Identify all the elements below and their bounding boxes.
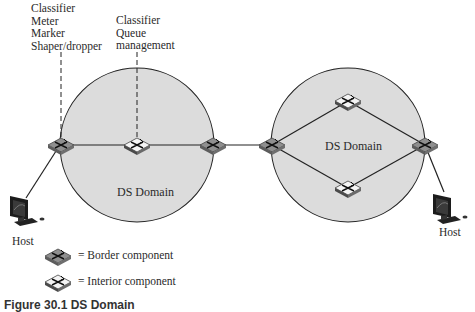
interior-function-classifier: Classifier: [116, 14, 175, 27]
host-right-label: Host: [439, 226, 461, 239]
legend-border: = Border component: [78, 249, 173, 261]
ds-domain-2-label: DS Domain: [325, 139, 382, 154]
legend-interior-router-icon: [45, 275, 71, 292]
border-functions-label: Classifier Meter Marker Shaper/dropper: [31, 2, 102, 52]
interior-function-management: management: [116, 39, 175, 52]
legend-interior: = Interior component: [78, 275, 176, 287]
host-computer-icon: [433, 194, 468, 224]
interior-functions-label: Classifier Queue management: [116, 14, 175, 52]
figure-caption: Figure 30.1 DS Domain: [4, 298, 135, 312]
ds-domain-1-label: DS Domain: [117, 185, 174, 200]
host-left-label: Host: [12, 235, 34, 248]
legend-border-text: = Border component: [78, 249, 173, 261]
host-computer-icon: [10, 196, 45, 226]
interior-function-queue: Queue: [116, 27, 175, 40]
legend-interior-text: = Interior component: [78, 275, 176, 287]
border-function-marker: Marker: [31, 27, 102, 40]
border-function-classifier: Classifier: [31, 2, 102, 15]
border-function-meter: Meter: [31, 15, 102, 28]
border-function-shaper-dropper: Shaper/dropper: [31, 40, 102, 53]
legend-border-router-icon: [45, 249, 71, 266]
